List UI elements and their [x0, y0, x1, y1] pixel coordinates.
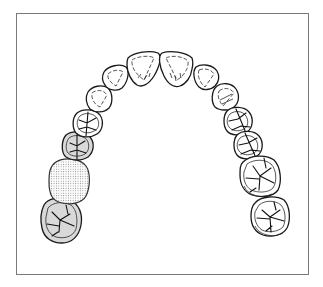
dental-arch [0, 0, 323, 287]
tooth-left-second-molar [41, 198, 82, 243]
tooth-left-lateral-incisor [103, 65, 128, 90]
tooth-right-lateral-incisor [194, 65, 219, 90]
tooth-left-first-premolar [73, 110, 102, 137]
tooth-left-canine [86, 86, 112, 112]
tooth-left-first-molar-pontic [49, 159, 89, 204]
tooth-right-first-molar [240, 156, 280, 197]
tooth-right-second-premolar [234, 131, 262, 159]
tooth-left-central-incisor [127, 52, 160, 86]
tooth-right-second-molar [251, 197, 289, 236]
tooth-right-central-incisor [160, 52, 193, 87]
tooth-right-canine [212, 84, 238, 110]
